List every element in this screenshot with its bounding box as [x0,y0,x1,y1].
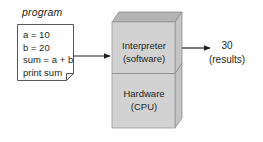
interpreter-label-line2: (software) [112,53,176,66]
box-side-face [175,12,182,128]
code-line-4: print sum [23,67,73,80]
program-caption: program [22,7,63,18]
hardware-layer-label: Hardware (CPU) [112,88,176,113]
program-code-block: a = 10 b = 20 sum = a + b print sum [23,29,73,79]
code-line-1: a = 10 [23,29,73,42]
hardware-label-line1: Hardware [112,88,176,101]
result-caption: (results) [198,55,256,65]
result-value: 30 [206,41,248,51]
code-line-2: b = 20 [23,42,73,55]
diagram-canvas: program a = 10 b = 20 sum = a + b print … [0,0,263,142]
interpreter-label-line1: Interpreter [112,40,176,53]
code-line-3: sum = a + b [23,54,73,67]
hardware-label-line2: (CPU) [112,101,176,114]
box-top-face [112,12,182,22]
interpreter-layer-label: Interpreter (software) [112,40,176,65]
